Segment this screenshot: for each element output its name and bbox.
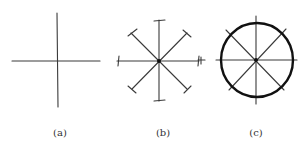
panel-a: (a) [12,13,100,138]
panel-c-label: (c) [249,127,263,138]
panel-b-label: (b) [156,127,170,138]
panel-c: (c) [198,16,297,138]
center-dot [157,59,161,63]
panel-a-label: (a) [53,127,67,138]
panel-b: (b) [117,20,199,138]
vertical-line [57,13,58,107]
diagram-canvas: (a) (b) (c) [0,0,303,149]
center-dot [254,58,258,62]
